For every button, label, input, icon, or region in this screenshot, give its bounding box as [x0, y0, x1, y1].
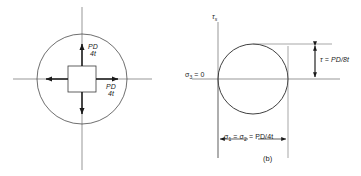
stress-element-square — [68, 66, 96, 92]
sigma3-label: σ3 = 0 — [185, 71, 205, 79]
tau-dimension-label: τ = PD/8t — [320, 56, 349, 64]
tau-axis-label: τs — [212, 13, 217, 21]
figure-caption: (b) — [263, 155, 272, 164]
stress-label-right: PD 4t — [106, 83, 116, 98]
stress-label-top: PD 4t — [88, 43, 98, 58]
sigma-dimension-label: σ1 = σ2 = PD/4t — [224, 133, 273, 141]
panel-stress-element — [13, 7, 152, 170]
figure-drawing — [0, 0, 361, 176]
figure-container: PD 4t PD 4t τs σ3 = 0 τ = PD/8t σ1 = σ2 … — [0, 0, 361, 176]
